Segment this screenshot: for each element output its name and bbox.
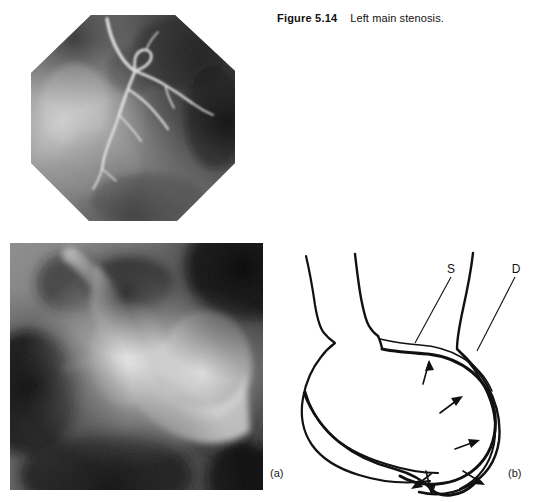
vessel-wall-proximal-right [355,254,378,336]
vessel-wall-outer-distal [419,253,500,494]
figure-title: Left main stenosis. [350,12,444,24]
line-drawing-panel-b: S D [283,243,544,502]
angiogram-octagonal-field [29,13,237,224]
vessel-wall-outer-left [302,256,430,482]
leader-line-d [477,277,515,351]
leader-line-group [415,277,515,351]
label-d: D [512,262,521,276]
vessel-outline-group [302,253,500,495]
lumen-border-lower [304,393,431,489]
stenosis-arrow-3 [455,439,480,449]
stenosis-shoulder [378,336,382,348]
line-drawing-svg: S D [283,243,544,502]
stenosis-arrow-group [411,360,485,495]
label-s: S [447,262,455,276]
stenosis-arrow-2 [440,396,463,413]
lumen-border-distal [382,349,495,484]
stenosis-lumen-line [380,339,492,391]
angiogram-octagonal-svg [29,13,237,224]
panel-a-label: (a) [270,467,283,479]
angiogram-panel-a-field [10,243,263,490]
panel-b-label: (b) [508,467,521,479]
leader-line-s [415,277,451,343]
angiogram-panel-a-svg [10,243,263,490]
angiogram-octagonal-image [29,13,237,224]
figure-caption: Figure 5.14Left main stenosis. [277,12,444,24]
stenosis-arrow-1 [423,360,434,384]
figure-number: Figure 5.14 [277,12,337,24]
angiogram-panel-a-image [10,243,263,490]
